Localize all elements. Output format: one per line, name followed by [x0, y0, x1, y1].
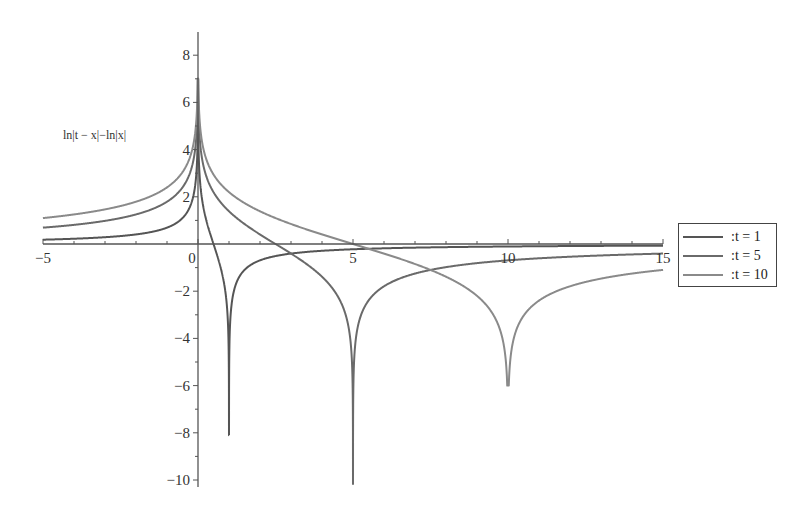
legend-swatch-t5 [683, 255, 723, 257]
legend-item-t10: :t = 10 [683, 265, 772, 284]
x-tick-label: 5 [349, 250, 357, 266]
legend: :t = 1 :t = 5 :t = 10 [678, 223, 777, 287]
x-tick-label: 10 [501, 250, 516, 266]
y-tick-label: 2 [183, 189, 191, 205]
y-tick-label: −2 [174, 283, 190, 299]
legend-swatch-t1 [683, 236, 723, 238]
curve-t1 [198, 79, 229, 435]
legend-item-t1: :t = 1 [683, 227, 772, 246]
y-tick-label: 8 [183, 47, 191, 63]
curves-group [43, 79, 663, 485]
curve-t5 [198, 79, 353, 485]
legend-item-t5: :t = 5 [683, 246, 772, 265]
curve-t10 [508, 270, 663, 386]
y-tick-label: −6 [174, 378, 190, 394]
legend-label-t5: :t = 5 [731, 248, 761, 264]
legend-label-t1: :t = 1 [731, 229, 761, 245]
curve-t1 [229, 246, 663, 430]
x-tick-label: −5 [35, 250, 51, 266]
y-tick-label: −4 [174, 330, 190, 346]
y-tick-label: 4 [183, 142, 191, 158]
x-tick-label: 15 [656, 250, 671, 266]
curve-t10 [198, 79, 508, 386]
x-tick-label: 0 [188, 250, 196, 266]
y-tick-label: −8 [174, 425, 190, 441]
curve-t5 [353, 254, 663, 476]
y-tick-label: 6 [183, 94, 191, 110]
legend-swatch-t10 [683, 274, 723, 276]
y-tick-label: −10 [167, 472, 190, 488]
y-axis-label: ln|t − x|−ln|x| [63, 128, 126, 143]
legend-label-t10: :t = 10 [731, 267, 768, 283]
